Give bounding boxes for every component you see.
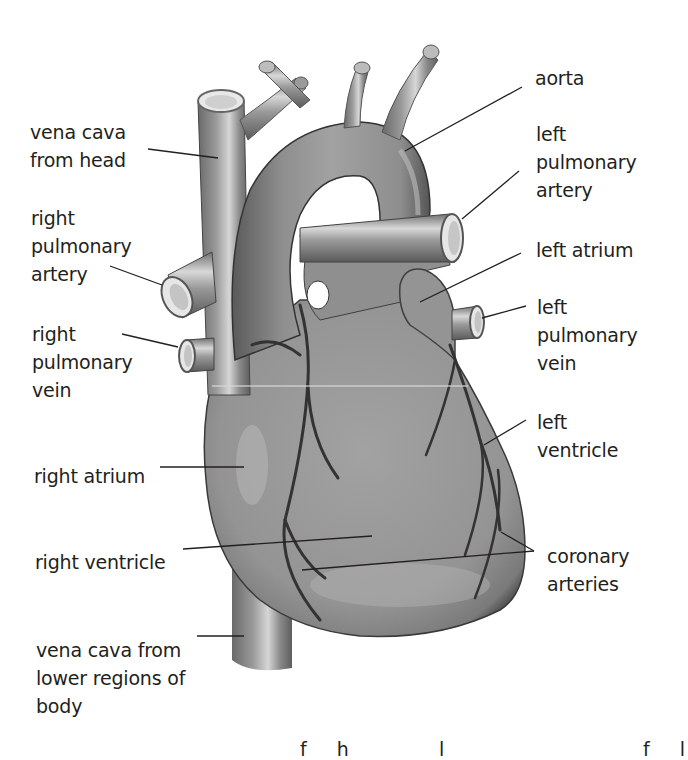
label-right-atrium: right atrium (34, 462, 145, 490)
label-aorta: aorta (535, 64, 584, 92)
left-pulmonary-vein-vessel (452, 306, 484, 340)
label-left-atrium: left atrium (536, 236, 633, 264)
label-vena-cava-from-lower-regions: vena cava from lower regions of body (36, 636, 185, 720)
footer-partial-text: f h l f l (300, 738, 688, 760)
label-right-pulmonary-vein: right pulmonary vein (32, 320, 132, 404)
right-pulmonary-vein-vessel (179, 338, 214, 372)
label-vena-cava-from-head: vena cava from head (30, 118, 126, 174)
label-left-ventricle: left ventricle (537, 408, 618, 464)
label-left-pulmonary-artery: left pulmonary artery (536, 120, 636, 204)
left-pulmonary-artery-vessel (300, 214, 463, 262)
label-left-pulmonary-vein: left pulmonary vein (537, 293, 637, 377)
label-right-ventricle: right ventricle (35, 548, 166, 576)
label-coronary-arteries: coronary arteries (547, 542, 629, 598)
label-right-pulmonary-artery: right pulmonary artery (31, 204, 131, 288)
